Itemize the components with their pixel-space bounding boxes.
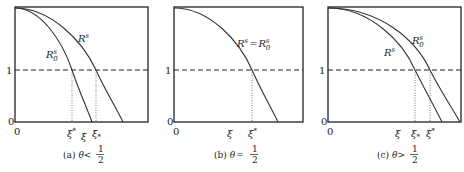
panel-a-curve-r0s <box>15 8 92 122</box>
panel-c-xlabel-xi: ξ <box>395 128 401 139</box>
svg-text:1: 1 <box>412 144 418 154</box>
panel-a-caption: (a)θ< 1 2 <box>63 144 104 165</box>
panel-a-ytick-1: 1 <box>6 65 12 76</box>
panel-b-xlabel-xi: ξ <box>227 128 233 139</box>
panel-b-xlabel-xi-star: ξ* <box>248 127 258 139</box>
svg-text:2: 2 <box>412 155 418 165</box>
svg-text:1: 1 <box>252 144 258 154</box>
panel-a-frame <box>15 7 148 122</box>
panel-b-caption: (b)θ= 1 2 <box>214 144 258 165</box>
panel-a-label-r0s: Rs0 <box>45 48 58 63</box>
svg-text:2: 2 <box>252 155 258 165</box>
panel-b-frame <box>174 7 303 122</box>
panel-c-label-r0s: Rs0 <box>411 34 424 49</box>
panel-a: 1 0 0 Rs0 Rs ξ* ξ ξ* (a)θ< 1 2 <box>6 7 148 165</box>
panel-c: 1 0 0 Rs0 Rs ξ ξ* ξ* (c)θ> 1 2 <box>319 7 461 165</box>
panel-c-curve-r0s <box>328 8 460 122</box>
svg-text:2: 2 <box>98 155 104 165</box>
panel-a-label-rs: Rs <box>77 32 90 44</box>
panel-c-xorigin: 0 <box>327 126 333 137</box>
svg-text:(c)θ>: (c)θ> <box>377 150 405 160</box>
panel-a-xlabel-xi-star: ξ* <box>67 127 77 139</box>
panel-b-ytick-1: 1 <box>165 65 171 76</box>
panel-c-xlabel-xi-lower-star: ξ* <box>411 128 421 141</box>
panel-c-caption: (c)θ> 1 2 <box>377 144 418 165</box>
svg-text:(b)θ=: (b)θ= <box>214 150 244 160</box>
figure-canvas: 1 0 0 Rs0 Rs ξ* ξ ξ* (a)θ< 1 2 1 0 0 Rs=… <box>0 0 464 172</box>
panel-c-curve-rs <box>328 8 442 122</box>
panel-a-xorigin: 0 <box>14 126 20 137</box>
panel-a-xlabel-xi: ξ <box>81 131 87 142</box>
panel-b: 1 0 0 Rs=Rs0 ξ ξ* (b)θ= 1 2 <box>165 7 303 165</box>
panel-c-ytick-1: 1 <box>319 65 325 76</box>
panel-c-xlabel-xi-star: ξ* <box>426 127 436 139</box>
panel-a-curve-rs <box>15 8 123 122</box>
panel-b-curve-rs-r0s <box>174 8 278 122</box>
panel-b-xorigin: 0 <box>173 126 179 137</box>
panel-a-xlabel-xi-lower-star: ξ* <box>92 128 102 141</box>
svg-text:1: 1 <box>98 144 104 154</box>
panel-c-label-rs: Rs <box>383 46 396 58</box>
panel-c-frame <box>328 7 461 122</box>
svg-text:(a)θ<: (a)θ< <box>63 150 91 160</box>
